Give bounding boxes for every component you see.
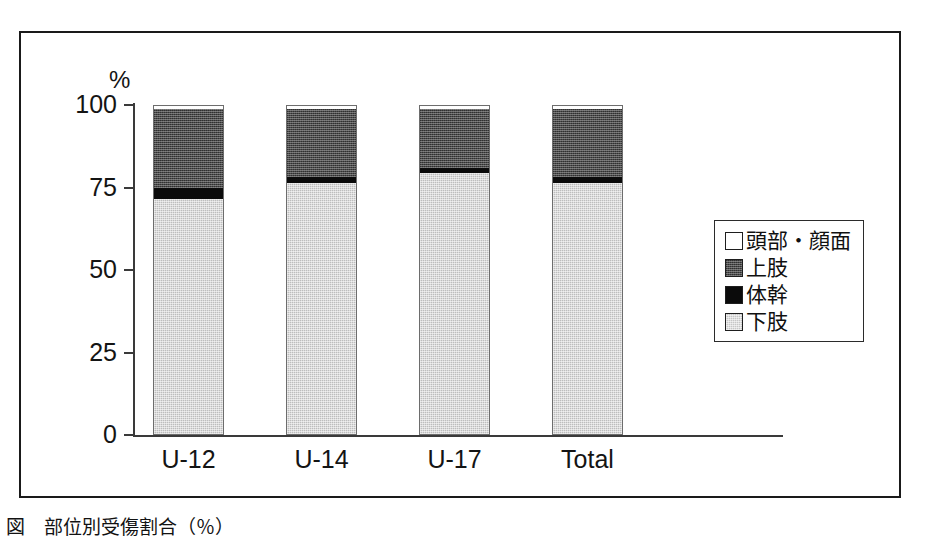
bar-u-17[interactable] — [419, 105, 490, 435]
legend-item-label: 頭部・顔面 — [746, 230, 851, 251]
black-square-icon — [725, 286, 743, 304]
white-square-icon — [725, 232, 743, 250]
bar-segment-上肢 — [154, 109, 223, 188]
bar-u-14[interactable] — [286, 105, 357, 435]
bar-segment-体幹 — [154, 188, 223, 199]
legend-item-頭部・顔面[interactable]: 頭部・顔面 — [725, 227, 863, 254]
x-axis-label-u-17: U-17 — [385, 445, 525, 474]
legend-item-label: 上肢 — [746, 257, 788, 278]
y-axis-tick-25 — [124, 352, 135, 354]
bar-segment-下肢 — [154, 199, 223, 434]
legend-item-体幹[interactable]: 体幹 — [725, 281, 863, 308]
light-gray-square-icon — [725, 313, 743, 331]
bar-segment-下肢 — [553, 183, 622, 434]
legend-box: 頭部・顔面上肢体幹下肢 — [714, 220, 864, 342]
legend-item-上肢[interactable]: 上肢 — [725, 254, 863, 281]
plot-area: % 1007550250 U-12U-14U-17Total 頭部・顔面上肢体幹… — [21, 33, 903, 500]
y-axis-tick-label-50: 50 — [47, 255, 117, 284]
y-axis-tick-100 — [124, 104, 135, 106]
x-axis-label-total: Total — [518, 445, 658, 474]
legend-item-label: 体幹 — [746, 284, 788, 305]
y-axis-tick-label-25: 25 — [47, 338, 117, 367]
figure-frame: % 1007550250 U-12U-14U-17Total 頭部・顔面上肢体幹… — [19, 31, 901, 498]
bar-u-12[interactable] — [153, 105, 224, 435]
figure-caption: 図 部位別受傷割合（％） — [6, 512, 234, 539]
bar-segment-上肢 — [420, 109, 489, 168]
dark-gray-square-icon — [725, 259, 743, 277]
y-axis-tick-label-100: 100 — [47, 90, 117, 119]
legend-item-label: 下肢 — [746, 311, 788, 332]
y-axis-tick-label-0: 0 — [47, 420, 117, 449]
y-axis-tick-50 — [124, 269, 135, 271]
legend-item-下肢[interactable]: 下肢 — [725, 308, 863, 335]
x-axis-label-u-12: U-12 — [119, 445, 259, 474]
bar-total[interactable] — [552, 105, 623, 435]
y-axis-tick-75 — [124, 187, 135, 189]
bar-segment-上肢 — [553, 109, 622, 176]
x-axis-line — [133, 435, 783, 437]
bar-segment-上肢 — [287, 109, 356, 176]
bar-segment-下肢 — [420, 173, 489, 434]
y-axis-tick-label-75: 75 — [47, 173, 117, 202]
x-axis-label-u-14: U-14 — [252, 445, 392, 474]
y-axis-tick-0 — [124, 434, 135, 436]
bar-segment-下肢 — [287, 183, 356, 434]
